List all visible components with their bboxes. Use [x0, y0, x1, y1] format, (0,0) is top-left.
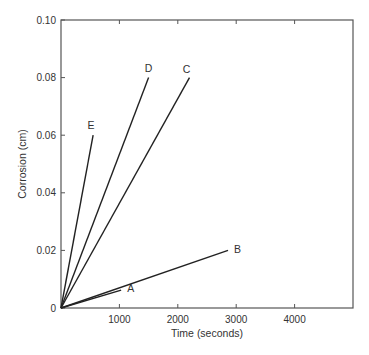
plot-border	[61, 20, 353, 308]
series-label-b: B	[234, 243, 241, 255]
series-label-d: D	[145, 62, 153, 74]
y-tick-label: 0.06	[37, 130, 57, 141]
y-tick-label: 0	[50, 303, 56, 314]
series-line-c	[61, 78, 189, 308]
y-tick-label: 0.10	[37, 15, 57, 26]
series-line-b	[61, 250, 228, 308]
series-line-d	[61, 78, 149, 308]
x-axis-label: Time (seconds)	[171, 327, 243, 339]
series-line-e	[61, 135, 93, 308]
y-tick-label: 0.02	[37, 245, 57, 256]
series-label-e: E	[88, 119, 95, 131]
series-lines: ABCDE	[61, 62, 241, 308]
series-label-c: C	[183, 63, 191, 75]
corrosion-chart: 1000200030004000 00.020.040.060.080.10 A…	[0, 0, 369, 355]
x-axis-ticks: 1000200030004000	[108, 20, 306, 325]
y-tick-label: 0.04	[37, 187, 57, 198]
x-tick-label: 4000	[283, 314, 306, 325]
y-axis-label: Corrosion (cm)	[16, 129, 28, 198]
y-tick-label: 0.08	[37, 72, 57, 83]
x-tick-label: 3000	[225, 314, 248, 325]
x-tick-label: 2000	[167, 314, 190, 325]
x-tick-label: 1000	[108, 314, 131, 325]
plot-frame	[61, 20, 353, 308]
